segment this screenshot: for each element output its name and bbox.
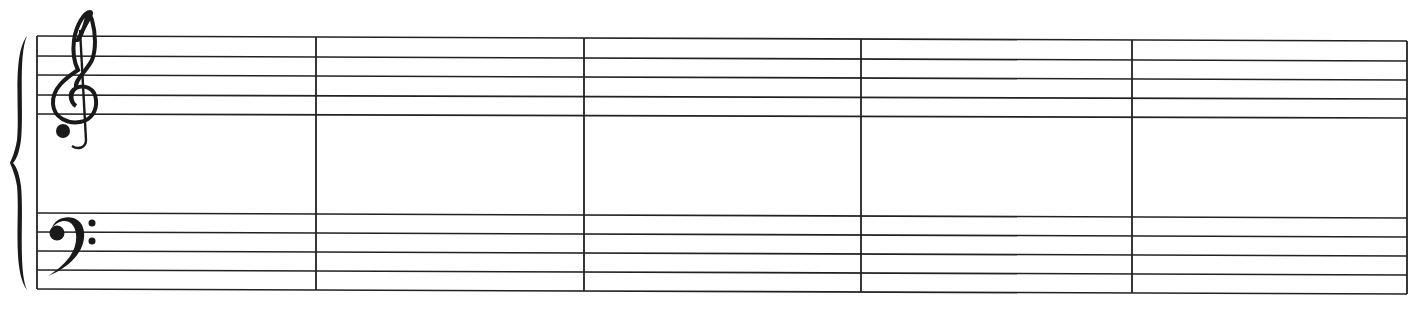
brace-icon [10,36,27,290]
treble-staff [37,36,1407,118]
bass-clef-icon [48,217,96,276]
bass-staff [37,213,1407,294]
treble-clef-icon [53,12,96,148]
grand-staff [0,0,1416,323]
